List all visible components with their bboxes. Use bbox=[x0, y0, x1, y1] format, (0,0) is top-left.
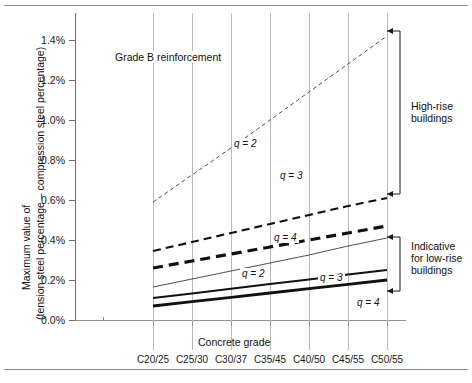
series-line-dashed-q3 bbox=[153, 198, 387, 251]
y-axis-title-line2: (tension steel percentage – compression … bbox=[34, 47, 46, 320]
bracket-high-rise bbox=[387, 28, 400, 197]
bracket-label-low-rise: Indicative for low-rise buildings bbox=[411, 240, 462, 276]
series-layer bbox=[0, 0, 472, 383]
annotation-dashed-q4: q = 4 bbox=[272, 232, 299, 243]
x-tick-mark-C30-37 bbox=[231, 321, 232, 326]
x-axis-title: Concrete grade bbox=[198, 336, 270, 348]
x-tick-mark-C35-45 bbox=[270, 321, 271, 326]
annotation-solid-q3: q = 3 bbox=[318, 272, 345, 283]
annotation-dashed-q3: q = 3 bbox=[278, 170, 305, 181]
annotation-dashed-q2: q = 2 bbox=[232, 138, 259, 149]
annotation-solid-q4: q = 4 bbox=[355, 297, 382, 308]
y-axis-title-line1: Maximum value of bbox=[20, 205, 32, 290]
x-tick-mark-C40-50 bbox=[309, 321, 310, 326]
bracket-low-rise bbox=[387, 234, 400, 294]
chart-figure: 1.4% 1.2% 1.0% 0.8% 0.6% 0.4% 0.2% 0.0% bbox=[0, 0, 472, 383]
x-tick-mark-C25-30 bbox=[192, 321, 193, 326]
bracket-label-low-rise-line2: for low-rise bbox=[411, 252, 462, 264]
x-tick-mark-C20-25 bbox=[153, 321, 154, 326]
bracket-label-high-rise-line2: buildings bbox=[411, 112, 453, 124]
chart-note: Grade B reinforcement bbox=[113, 51, 223, 63]
bracket-label-low-rise-line3: buildings bbox=[411, 264, 462, 276]
x-tick-mark-C45-55 bbox=[348, 321, 349, 326]
x-tick-mark-C50-55 bbox=[387, 321, 388, 326]
bracket-label-high-rise: High-rise buildings bbox=[411, 100, 453, 124]
x-tick-label-C50-55: C50/55 bbox=[357, 354, 417, 365]
bracket-label-low-rise-line1: Indicative bbox=[411, 240, 462, 252]
bracket-label-high-rise-line1: High-rise bbox=[411, 100, 453, 112]
series-line-dashed-q4 bbox=[153, 226, 387, 268]
annotation-solid-q2: q = 2 bbox=[240, 268, 267, 279]
